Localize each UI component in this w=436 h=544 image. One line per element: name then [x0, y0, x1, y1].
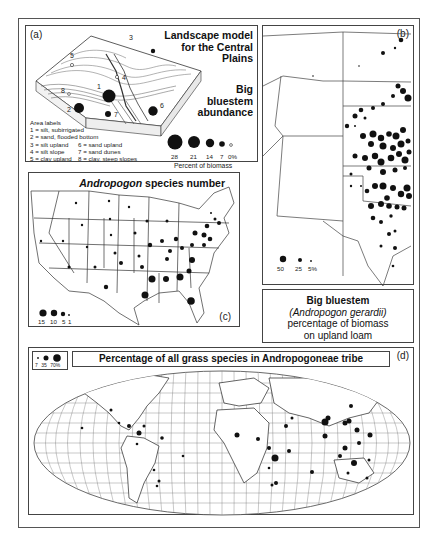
- site-2-dot: [74, 103, 84, 113]
- panel-b-bluestem-map: (b): [262, 25, 414, 285]
- site-7-dot: [105, 111, 111, 117]
- site-number-5: 5: [70, 52, 74, 59]
- legend-0-circle: [230, 144, 233, 147]
- legend-50-circle: [280, 256, 286, 262]
- panel-a-subtitle: Big bluestem abundance: [198, 84, 253, 119]
- site-4-dot: [115, 75, 118, 78]
- site-number-7: 7: [114, 111, 118, 118]
- site-6-dot: [148, 106, 157, 115]
- central-plains-map: [263, 26, 415, 286]
- legend-1-circle: [68, 314, 70, 316]
- legend-7-circle: [219, 141, 225, 147]
- panel-b-caption: Big bluestem (Andropogon gerardii) perce…: [263, 295, 413, 341]
- panel-a-landscape-model: (a) 3 5 4 8 1 2 7 6: [25, 25, 258, 162]
- site-number-8: 8: [61, 87, 65, 94]
- site-1-dot: [103, 90, 116, 103]
- site-3-dot: [151, 49, 155, 53]
- panel-a-legend-caption: Percent of biomass: [174, 162, 232, 169]
- panel-c-species-map: Andropogon species number (c): [28, 172, 240, 327]
- site-number-1: 1: [97, 83, 101, 90]
- panel-d-world-map: (d) Percentage of all grass species in A…: [28, 347, 414, 515]
- panel-b-caption-box: Big bluestem (Andropogon gerardii) perce…: [262, 289, 414, 343]
- legend-15-circle: [39, 309, 46, 316]
- site-number-2: 2: [67, 106, 71, 113]
- site-number-3: 3: [129, 34, 133, 41]
- legend-28-circle: [168, 135, 183, 150]
- legend-21-circle: [188, 136, 200, 148]
- site-8-dot: [68, 93, 71, 96]
- area-labels-list: Area labels 1 = silt, subirrigated 2 = s…: [30, 119, 155, 162]
- legend-5-circle: [310, 260, 312, 262]
- legend-14-circle: [206, 139, 214, 147]
- site-5-dot: [70, 63, 73, 66]
- legend-5-circle: [61, 312, 65, 316]
- panel-a-title: Landscape model for the Central Plains: [164, 30, 253, 65]
- site-number-4: 4: [122, 74, 126, 81]
- legend-10-circle: [51, 310, 57, 316]
- site-number-6: 6: [160, 102, 164, 109]
- legend-25-circle: [298, 258, 302, 262]
- world-map-graticule: [29, 348, 415, 516]
- us-states-map: [29, 173, 241, 328]
